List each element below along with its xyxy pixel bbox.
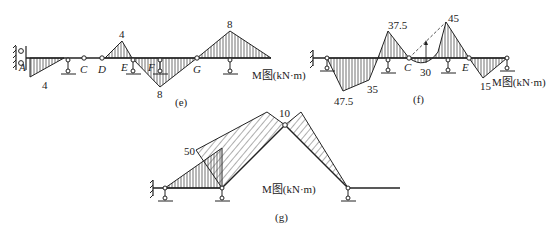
fixed-wall-icon	[150, 180, 153, 198]
label-e: E	[461, 61, 469, 73]
support-icon	[223, 58, 238, 74]
value-35: 35	[367, 83, 379, 95]
diagram-title-e: M图(kN·m)	[252, 69, 306, 82]
value-47-5: 47.5	[334, 95, 354, 107]
hinge-top	[283, 123, 288, 128]
label-d: D	[97, 63, 106, 75]
label-e: E	[120, 61, 128, 73]
support-icon	[381, 58, 396, 73]
label-a: A	[18, 61, 26, 73]
support-icon	[441, 58, 456, 73]
value-10: 10	[279, 107, 291, 119]
panel-g: 50 10 M图(kN·m) (g)	[150, 107, 400, 224]
label-f: F	[147, 61, 155, 73]
caption-g: (g)	[275, 211, 288, 224]
value-45: 45	[448, 12, 460, 24]
hinge-c	[407, 56, 411, 60]
value-15: 15	[480, 80, 492, 92]
fixed-wall-icon	[310, 50, 313, 68]
hinge-e	[467, 56, 471, 60]
diagram-title-f: M图(kN·m)	[492, 76, 546, 89]
diagram-title-g: M图(kN·m)	[262, 183, 316, 196]
value-37-5: 37.5	[388, 19, 408, 31]
hinge-d	[100, 56, 104, 60]
value-4-de: 4	[119, 28, 125, 40]
panel-e: A C D E F G 4 4 8 8 M图(kN·m) (e)	[13, 18, 306, 109]
value-8-g: 8	[227, 18, 233, 30]
panel-f: C E 47.5 35 37.5 30 45 15 M图(kN·m) (f)	[310, 12, 546, 107]
value-8-f: 8	[157, 88, 163, 100]
value-30: 30	[420, 66, 432, 78]
hinge-c	[82, 56, 86, 60]
caption-e: (e)	[175, 96, 188, 109]
moment-diagrams: A C D E F G 4 4 8 8 M图(kN·m) (e)	[0, 0, 553, 231]
hinge-g	[195, 56, 199, 60]
label-g: G	[193, 63, 201, 75]
caption-f: (f)	[413, 93, 424, 106]
label-c: C	[80, 63, 88, 75]
label-c: C	[404, 61, 412, 73]
value-4-a: 4	[42, 79, 48, 91]
value-50: 50	[184, 145, 196, 157]
support-icon	[61, 58, 76, 74]
member-right-rafter	[285, 125, 348, 188]
